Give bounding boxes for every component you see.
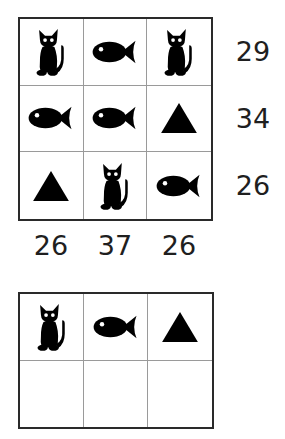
triangle-icon bbox=[161, 311, 199, 343]
answer-grid bbox=[18, 292, 214, 429]
grid-cell-r2c1 bbox=[20, 86, 84, 153]
grid-cell-r2c2 bbox=[84, 86, 148, 153]
cat-icon bbox=[35, 300, 69, 354]
grid-cell-r3c1 bbox=[20, 152, 84, 219]
grid-cell-r1c1 bbox=[20, 19, 84, 86]
fish-icon bbox=[27, 104, 75, 132]
answer-input-triangle[interactable] bbox=[148, 361, 212, 428]
cat-icon bbox=[162, 25, 196, 79]
fish-icon bbox=[91, 104, 139, 132]
row-sum-1: 29 bbox=[228, 38, 278, 65]
triangle-icon bbox=[160, 102, 198, 134]
grid-cell-r1c2 bbox=[84, 19, 148, 86]
cat-icon bbox=[34, 25, 68, 79]
col-sum-1: 26 bbox=[19, 232, 83, 259]
triangle-icon bbox=[32, 170, 70, 202]
fish-icon bbox=[92, 313, 140, 341]
row-sum-2: 34 bbox=[228, 105, 278, 132]
col-sum-3: 26 bbox=[147, 232, 211, 259]
fish-icon bbox=[155, 172, 203, 200]
answer-input-cat[interactable] bbox=[20, 361, 84, 428]
row-sum-3: 26 bbox=[228, 172, 278, 199]
answer-symbol-cat bbox=[20, 294, 84, 361]
answer-input-fish[interactable] bbox=[84, 361, 148, 428]
puzzle-grid bbox=[18, 17, 213, 221]
col-sum-2: 37 bbox=[83, 232, 147, 259]
cat-icon bbox=[98, 159, 132, 213]
grid-cell-r3c3 bbox=[147, 152, 211, 219]
answer-symbol-triangle bbox=[148, 294, 212, 361]
grid-cell-r2c3 bbox=[147, 86, 211, 153]
fish-icon bbox=[91, 38, 139, 66]
answer-symbol-fish bbox=[84, 294, 148, 361]
grid-cell-r3c2 bbox=[84, 152, 148, 219]
grid-cell-r1c3 bbox=[147, 19, 211, 86]
